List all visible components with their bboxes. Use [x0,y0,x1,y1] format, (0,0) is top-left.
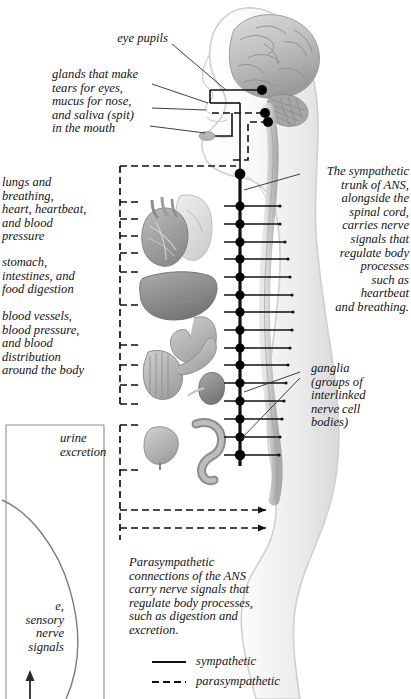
ganglion-dot [235,272,244,281]
ganglion-dot [235,201,244,210]
cranial-ganglion-dot [263,117,273,127]
parasympathetic-bracket-lower [120,425,266,540]
bladder-icon [144,427,178,470]
ganglion-dot [235,307,244,316]
ganglion-dot [235,237,244,246]
ganglion-dot [235,360,244,369]
callout-eye-pupils: eye pupils [48,32,168,46]
liver-icon [140,272,217,320]
cranial-ganglion-dot [257,85,267,95]
ans-diagram: eye pupils glands that make tears for ey… [0,0,411,699]
callout-clipped-sensory: e, sensory nerve signals [0,600,64,654]
legend-label-sympathetic: sympathetic [196,654,256,668]
callout-urine-excretion: urine excretion [60,432,120,459]
ganglion-dot [235,325,244,334]
callout-blood-vessels: blood vessels, blood pressure, and blood… [2,310,110,378]
ganglion-dot [235,378,244,387]
ganglion-dot [235,219,244,228]
callout-ganglia: ganglia (groups of interlinked nerve cel… [311,362,407,430]
callout-glands: glands that make tears for eyes, mucus f… [52,68,172,136]
ganglion-dot [235,396,244,405]
callout-sympathetic-trunk: The sympathetic trunk of ANS, alongside … [303,165,409,315]
ganglion-dot [235,290,244,299]
legend-label-parasympathetic: parasympathetic [196,674,280,688]
legend-swatches [152,662,186,682]
callout-stomach-digestion: stomach, intestines, and food digestion [2,256,106,297]
ganglion-dot [235,450,245,460]
parasympathetic-arrowheads [258,507,266,532]
callout-parasympathetic-note: Parasympathetic connections of the ANS c… [129,556,279,638]
colon-icon [196,422,222,480]
kidney-icon [188,372,225,404]
clipped-sensory-panel [2,425,104,699]
organ-group [140,195,225,481]
ganglion-dot [235,343,244,352]
ganglion-dot [235,414,244,423]
ganglion-dot [235,254,244,263]
sensory-arrow-icon [26,670,35,699]
cranial-ganglion-dot [260,108,270,118]
callout-lungs-heart: lungs and breathing, heart, heartbeat, a… [2,176,106,244]
